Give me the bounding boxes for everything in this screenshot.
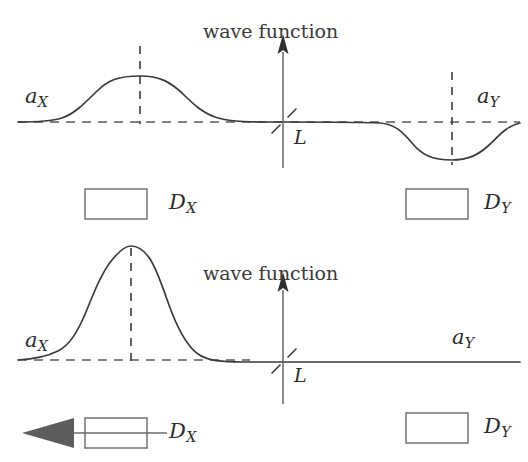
top-label-ax-base: a (25, 84, 38, 108)
bottom-label-ax-base: a (25, 328, 38, 352)
top-axis-break-mark-lower (272, 125, 280, 133)
bottom-label-dy-base: D (484, 414, 501, 438)
top-label-dx-base: D (169, 190, 186, 214)
top-label-l: L (294, 128, 307, 147)
bottom-label-dx-sub: X (186, 429, 196, 445)
top-axis-title: wave function (203, 22, 338, 41)
bottom-detector-box-dy[interactable] (406, 413, 468, 443)
top-label-ay-sub: Y (490, 94, 499, 110)
top-detector-box-dx[interactable] (85, 189, 147, 219)
top-label-ax-sub: X (38, 94, 48, 110)
top-label-ax: aX (25, 86, 48, 107)
top-label-ay: aY (477, 86, 499, 107)
wave-function-figure: wave function aX aY L DX DY wave functio… (0, 0, 528, 462)
top-label-dy: DY (484, 192, 510, 213)
figure-canvas (0, 0, 528, 462)
bottom-label-ay-base: a (452, 325, 465, 349)
bottom-axis-break-mark-upper (288, 349, 296, 357)
bottom-axis-title: wave function (203, 264, 338, 283)
bottom-label-dy-sub: Y (501, 424, 510, 440)
bottom-label-ay: aY (452, 327, 474, 348)
bottom-label-dy: DY (484, 416, 510, 437)
bottom-label-l: L (294, 366, 307, 385)
bottom-axis-break-mark-lower (272, 365, 280, 373)
top-label-dx-sub: X (186, 200, 196, 216)
top-axis-break-mark-upper (288, 109, 296, 117)
top-label-dy-base: D (484, 190, 501, 214)
bottom-label-ax-sub: X (38, 338, 48, 354)
bottom-label-dx-base: D (169, 419, 186, 443)
top-label-dx: DX (169, 192, 196, 213)
top-label-ay-base: a (477, 84, 490, 108)
bottom-label-ax: aX (25, 330, 48, 351)
bottom-detector-trigger-arrow (22, 418, 74, 448)
bottom-label-dx: DX (169, 421, 196, 442)
top-wave-function-curve (18, 76, 520, 160)
top-label-dy-sub: Y (501, 200, 510, 216)
top-panel (18, 34, 520, 219)
bottom-label-ay-sub: Y (465, 335, 474, 351)
top-detector-box-dy[interactable] (406, 189, 468, 219)
